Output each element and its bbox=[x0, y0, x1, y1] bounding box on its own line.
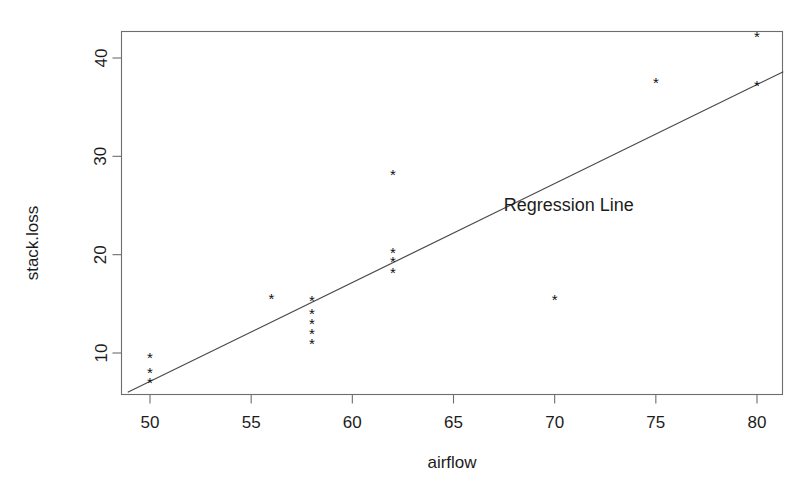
data-point: * bbox=[390, 166, 396, 183]
x-tick-label: 60 bbox=[343, 413, 362, 432]
y-tick-label: 10 bbox=[92, 344, 111, 363]
data-point: * bbox=[309, 335, 315, 352]
x-tick-label: 75 bbox=[646, 413, 665, 432]
x-tick-label: 65 bbox=[444, 413, 463, 432]
y-tick-label: 30 bbox=[92, 147, 111, 166]
data-point: * bbox=[754, 28, 760, 45]
regression-line-annotation: Regression Line bbox=[504, 195, 634, 215]
y-axis-title: stack.loss bbox=[23, 206, 42, 281]
y-tick-label: 20 bbox=[92, 245, 111, 264]
x-tick-label: 55 bbox=[242, 413, 261, 432]
data-point: * bbox=[147, 374, 153, 391]
data-point: * bbox=[754, 77, 760, 94]
data-point: * bbox=[552, 291, 558, 308]
x-tick-label: 50 bbox=[141, 413, 160, 432]
data-point: * bbox=[653, 74, 659, 91]
y-tick-label: 40 bbox=[92, 49, 111, 68]
chart-canvas: ***************** 50556065707580 1020304… bbox=[0, 0, 808, 490]
scatter-plot-figure: ***************** 50556065707580 1020304… bbox=[0, 0, 808, 490]
x-tick-label: 80 bbox=[748, 413, 767, 432]
data-point: * bbox=[390, 264, 396, 281]
x-axis-title: airflow bbox=[427, 453, 477, 472]
x-tick-label: 70 bbox=[545, 413, 564, 432]
data-point: * bbox=[268, 290, 274, 307]
